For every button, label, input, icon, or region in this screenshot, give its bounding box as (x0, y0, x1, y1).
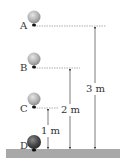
dimension-label-2m: 2 m (61, 104, 80, 116)
dimension-label-3m: 3 m (86, 83, 105, 95)
point-label-d: D (20, 141, 28, 151)
point-label-a: A (20, 21, 27, 31)
point-label-b: B (20, 63, 27, 73)
ball-a (28, 11, 41, 27)
ball-c (28, 93, 41, 109)
dimension-label-1m: 1 m (41, 125, 60, 137)
ball-b (28, 53, 41, 69)
point-label-c: C (20, 104, 28, 114)
